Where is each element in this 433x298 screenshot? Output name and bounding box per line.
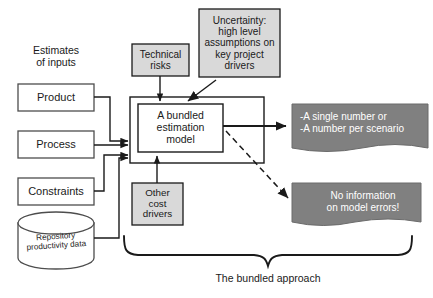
connector-repository-to-model [94,158,128,238]
connector-uncertainty-to-model [188,80,216,101]
diagram-canvas: Estimates of inputs Product Process Cons… [0,0,433,298]
other-cost-drivers-box-shape [132,183,183,225]
connector-model-to-no-information [226,131,288,198]
bundled-approach-caption: The bundled approach [178,272,358,284]
connector-product-to-model [94,97,128,141]
no-information-banner-label: No information on model errors! [304,190,422,214]
single-number-banner-label: -A single number or -A number per scenar… [300,111,426,135]
product-box-shape [18,84,94,111]
bundled-estimation-model-box-shape [138,104,223,152]
constraints-box-shape [18,178,94,205]
process-box-shape [18,131,94,158]
connector-constraints-to-model [94,155,128,191]
estimates-of-inputs-label: Estimates of inputs [14,44,98,69]
technical-risks-box-shape [132,44,189,76]
uncertainty-box-shape [199,9,280,77]
bundled-approach-brace-shape [124,236,412,266]
